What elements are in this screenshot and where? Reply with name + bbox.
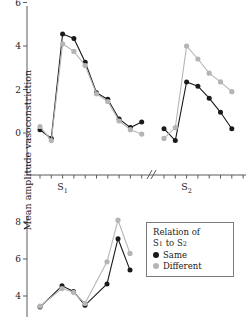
y-tick-label: 6 [15,0,21,8]
legend-item-same: Same [153,250,228,260]
legend-marker-different [153,263,159,269]
data-point-different [49,138,54,143]
data-point-bottom-different [71,290,76,295]
data-point-same [229,126,234,131]
data-point-bottom-same [105,282,110,287]
data-point-different [37,124,42,129]
legend-item-different: Different [153,261,228,271]
data-point-bottom-same [116,236,121,241]
bottom-panel: 468 [15,216,132,317]
data-point-different [105,99,110,104]
data-point-bottom-different [82,301,87,306]
data-point-different [71,49,76,54]
legend-title-to-s2: to S [163,238,183,248]
data-point-different [128,127,133,132]
data-point-different [161,136,166,141]
data-point-same [162,126,167,131]
y-tick-label: 4 [15,41,21,51]
vasoconstriction-figure: 0246S1S2 468 Mean amplitude vasoconstric… [0,0,252,317]
legend-label-same: Same [163,250,187,260]
series-line-different [40,44,142,141]
data-point-same [207,96,212,101]
data-point-bottom-different [59,286,64,291]
x-category-label: S1 [57,181,68,195]
data-point-different [117,118,122,123]
legend-marker-same [153,252,159,258]
data-point-different [184,43,189,48]
data-point-different [94,91,99,96]
data-point-different [173,125,178,130]
y-tick-label: 2 [15,85,21,95]
legend-title: Relation of S1 to S2 [153,227,228,249]
x-category-label: S2 [181,181,192,195]
data-point-same [184,79,189,84]
y-tick-label-bottom: 4 [15,291,21,301]
data-point-same [139,120,144,125]
legend-title-s2-sub: 2 [183,240,187,248]
data-point-different [207,71,212,76]
data-point-bottom-different [104,259,109,264]
data-point-bottom-different [115,218,120,223]
data-point-bottom-different [127,251,132,256]
data-point-same [71,36,76,41]
series-line-bottom-same [40,239,130,307]
y-tick-label: 0 [15,128,21,138]
legend-title-line1: Relation of [153,227,200,237]
data-point-bottom-different [37,304,42,309]
legend-label-different: Different [163,261,202,271]
data-point-same [218,110,223,115]
data-point-same [173,138,178,143]
data-point-different [139,132,144,137]
legend-box: Relation of S1 to S2 Same Different [146,222,234,277]
data-point-same [60,32,65,37]
data-point-different [195,56,200,61]
y-axis-label: Mean amplitude vasoconstriction [22,81,33,231]
y-tick-label-bottom: 8 [15,217,21,227]
data-point-different [218,79,223,84]
series-line-same [40,34,142,138]
y-tick-label-bottom: 6 [15,254,21,264]
top-panel: 0246S1S2 [15,0,246,195]
data-point-different [60,41,65,46]
data-point-different [229,89,234,94]
data-point-different [83,63,88,68]
data-point-bottom-same [128,268,133,273]
data-point-same [195,84,200,89]
